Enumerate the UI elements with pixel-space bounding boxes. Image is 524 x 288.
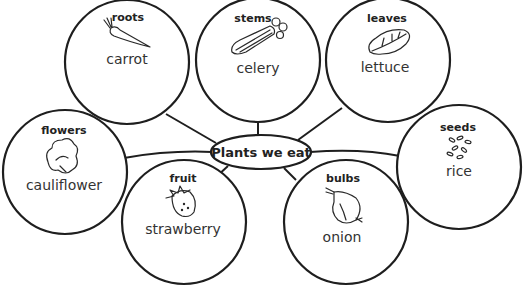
- example-label: carrot: [106, 51, 148, 67]
- node-leaves: leaves lettuce: [326, 0, 450, 122]
- example-label: onion: [323, 229, 362, 245]
- category-label: bulbs: [326, 172, 360, 185]
- example-label: strawberry: [145, 221, 221, 237]
- example-label: lettuce: [361, 59, 410, 75]
- central-topic: Plants we eat: [211, 135, 311, 169]
- node-roots: roots carrot: [65, 0, 189, 124]
- example-label: celery: [237, 60, 280, 76]
- category-label: fruit: [169, 172, 196, 185]
- connector-seeds: [310, 151, 400, 156]
- category-label: leaves: [367, 12, 407, 25]
- node-flowers: flowers cauliflower: [3, 110, 127, 234]
- category-label: roots: [112, 11, 145, 24]
- category-label: flowers: [41, 124, 87, 137]
- node-bulbs: bulbs onion: [284, 160, 408, 284]
- mind-map: roots carrot stems celery leaves lettuce…: [0, 0, 524, 288]
- node-fruit: fruit strawberry: [122, 160, 246, 284]
- node-stems: stems celery: [196, 0, 320, 122]
- connector-flowers: [124, 152, 212, 158]
- connector-leaves: [298, 108, 342, 140]
- node-seeds: seeds rice: [397, 105, 521, 229]
- connector-bulbs: [284, 168, 296, 180]
- connector-roots: [166, 114, 216, 143]
- example-label: cauliflower: [26, 177, 102, 193]
- category-label: seeds: [440, 121, 476, 134]
- category-label: stems: [234, 12, 272, 25]
- central-topic-label: Plants we eat: [211, 145, 311, 160]
- example-label: rice: [446, 163, 472, 179]
